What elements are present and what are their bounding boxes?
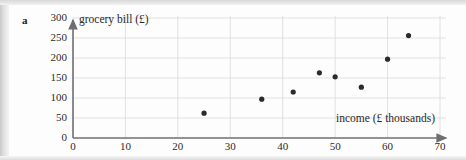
y-tick-label: 50 (37, 111, 67, 123)
x-tick-label: 10 (110, 140, 140, 152)
x-tick-label: 60 (373, 140, 403, 152)
data-point-group (201, 33, 411, 116)
horizontal-gridlines (73, 18, 446, 118)
x-tick-label: 30 (215, 140, 245, 152)
x-tick-label: 20 (163, 140, 193, 152)
y-tick-label: 300 (37, 11, 67, 23)
y-tick-label: 250 (37, 31, 67, 43)
x-tick-label: 70 (425, 140, 455, 152)
data-point (333, 74, 338, 79)
data-point (406, 33, 411, 38)
y-tick-label: 100 (37, 91, 67, 103)
data-point (385, 57, 390, 62)
data-point (291, 89, 296, 94)
data-point (201, 111, 206, 116)
x-tick-label: 0 (58, 140, 88, 152)
x-tick-label: 40 (268, 140, 298, 152)
x-tick-label: 50 (320, 140, 350, 152)
data-point (359, 85, 364, 90)
y-tick-label: 200 (37, 51, 67, 63)
worksheet-page: a grocery bill (£) income (£ thousands) … (0, 0, 466, 160)
y-axis-title: grocery bill (£) (79, 13, 149, 25)
data-point (317, 70, 322, 75)
y-tick-label: 150 (37, 71, 67, 83)
x-axis-title: income (£ thousands) (336, 112, 435, 124)
data-point (259, 97, 264, 102)
scatter-plot (0, 0, 466, 160)
